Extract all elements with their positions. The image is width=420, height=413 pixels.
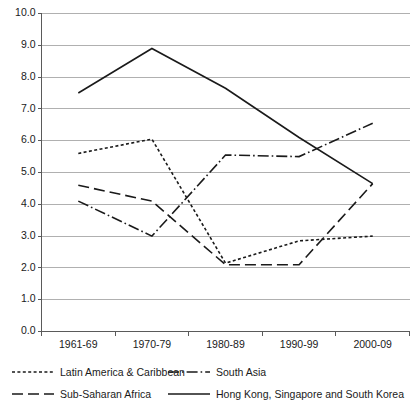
legend-row: Sub-Saharan Africa Hong Kong, Singapore … [0,383,420,405]
plot-area: 0.01.02.03.04.05.06.07.08.09.010.0 1961-… [0,0,420,355]
chart-canvas: 0.01.02.03.04.05.06.07.08.09.010.0 1961-… [0,0,420,355]
y-axis-tick-label: 9.0 [21,38,36,50]
legend-swatch-dashed-icon [12,389,54,399]
data-series [78,48,372,264]
legend-swatch-dotted-icon [12,367,54,377]
legend-label: South Asia [216,366,266,378]
series-line-dash-dot [78,123,372,236]
x-axis-tick-labels: 1961-691970-791980-891990-992000-09 [59,338,392,350]
x-axis-tick-label: 1970-79 [133,338,172,350]
legend-item-latin-america-caribbean[interactable]: Latin America & Caribbean [0,361,168,383]
y-axis-tick-label: 8.0 [21,70,36,82]
gridlines [42,14,410,300]
y-axis-tick-label: 10.0 [15,6,36,18]
y-axis-tick-label: 2.0 [21,261,36,273]
series-line-solid [78,48,372,183]
y-axis-tick-labels: 0.01.02.03.04.05.06.07.08.09.010.0 [15,6,41,336]
x-axis-tick-label: 1961-69 [59,338,98,350]
y-axis-tick-label: 5.0 [21,165,36,177]
y-axis-tick-label: 3.0 [21,229,36,241]
legend-label: Sub-Saharan Africa [60,388,151,400]
y-axis-tick-label: 6.0 [21,133,36,145]
chart-legend: Latin America & Caribbean South Asia Sub [0,358,420,413]
line-chart: 0.01.02.03.04.05.06.07.08.09.010.0 1961-… [0,0,420,413]
series-line-dotted [78,139,372,263]
y-axis-tick-label: 4.0 [21,197,36,209]
legend-label: Latin America & Caribbean [60,366,185,378]
x-axis-ticks [42,332,410,336]
y-axis-tick-label: 1.0 [21,292,36,304]
series-line-dashed [78,184,372,265]
y-axis-tick-label: 0.0 [21,324,36,336]
legend-item-sub-saharan-africa[interactable]: Sub-Saharan Africa [0,383,168,405]
legend-item-hong-kong-singapore-south-korea[interactable]: Hong Kong, Singapore and South Korea [168,383,408,405]
x-axis-tick-label: 1980-89 [206,338,245,350]
x-axis-tick-label: 1990-99 [280,338,319,350]
legend-label: Hong Kong, Singapore and South Korea [216,388,404,400]
legend-swatch-dash-dot-icon [168,367,210,377]
legend-swatch-solid-icon [168,389,210,399]
legend-row: Latin America & Caribbean South Asia [0,361,420,383]
y-axis-tick-label: 7.0 [21,102,36,114]
legend-item-south-asia[interactable]: South Asia [168,361,408,383]
x-axis-tick-label: 2000-09 [353,338,392,350]
